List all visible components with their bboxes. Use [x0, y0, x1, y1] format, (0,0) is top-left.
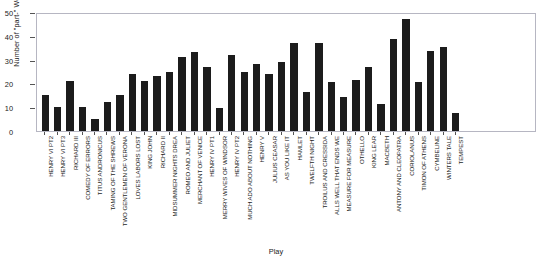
x-axis-tick-label: MEASURE FOR MEASURE [345, 136, 352, 212]
x-axis-tick-mark [418, 132, 419, 135]
bar [265, 74, 272, 131]
bar [415, 82, 422, 131]
x-axis-tick-label: TAMING OF THE SHREWS [109, 136, 116, 211]
bar [352, 80, 359, 131]
y-axis-tick-label: 40 [0, 32, 13, 41]
bar [203, 67, 210, 131]
x-axis-tick-label: KING LEAR [370, 136, 377, 168]
x-axis-tick-mark [368, 132, 369, 135]
bar-slot [151, 14, 163, 131]
x-axis-tick-label: AS YOU LIKE IT [283, 136, 290, 180]
x-axis-tick-label: HAMLET [296, 136, 303, 160]
x-axis-tick-mark [443, 132, 444, 135]
bar-slot [238, 14, 250, 131]
bar-slot [126, 14, 138, 131]
bar-slot [250, 14, 262, 131]
bar [91, 119, 98, 131]
bar [228, 55, 235, 131]
x-axis-tick-label: MIDSUMMER NIGHTS DREA [171, 136, 178, 217]
x-axis-tick-label: HENRY VI PT3 [59, 136, 66, 177]
bar-slot [89, 14, 101, 131]
x-axis-tick-mark [455, 132, 456, 135]
bar [178, 57, 185, 131]
x-axis-tick-label: TIMON OF ATHENS [420, 136, 427, 191]
y-axis-tick-label: 20 [0, 80, 13, 89]
bar [79, 107, 86, 131]
y-axis-tick-mark [30, 61, 35, 62]
y-axis-tick-label: 30 [0, 56, 13, 65]
bar [54, 107, 61, 131]
bar [141, 81, 148, 131]
x-axis-tick-label: RICHARD III [72, 136, 79, 170]
bar [340, 97, 347, 132]
bar [129, 74, 136, 131]
y-axis-tick-mark [30, 37, 35, 38]
x-axis-tick-mark [231, 132, 232, 135]
x-axis-tick-mark [243, 132, 244, 135]
bar [452, 113, 459, 131]
x-axis-tick-mark [331, 132, 332, 135]
bar [427, 51, 434, 131]
x-axis-tick-label: CORIOLANUS [408, 136, 415, 176]
bar-slot [114, 14, 126, 131]
bar [440, 47, 447, 131]
bar-slot [449, 14, 461, 131]
plot-area [36, 13, 536, 132]
bar-slot [300, 14, 312, 131]
x-axis-tick-mark [206, 132, 207, 135]
x-axis-tick-mark [281, 132, 282, 135]
x-axis-tick-label: TEMPEST [457, 136, 464, 164]
bar-slot [313, 14, 325, 131]
x-axis-tick-label: JULIUS CEASAR [271, 136, 278, 183]
x-axis-tick-mark [82, 132, 83, 135]
bar-series [37, 14, 535, 131]
x-axis-tick-mark [268, 132, 269, 135]
x-axis-tick-labels: HENRY VI PT2HENRY VI PT3RICHARD IIICOMED… [36, 136, 536, 240]
bar-slot [275, 14, 287, 131]
bar [278, 62, 285, 131]
bar [377, 104, 384, 131]
bar-slot [400, 14, 412, 131]
bar [104, 102, 111, 131]
bar-slot [201, 14, 213, 131]
bar-slot [263, 14, 275, 131]
bar-slot [163, 14, 175, 131]
x-axis-tick-mark [318, 132, 319, 135]
x-axis-tick-mark [69, 132, 70, 135]
bar [216, 108, 223, 131]
x-axis-tick-label: ROMEO AND JULIET [184, 136, 191, 194]
bar-slot [39, 14, 51, 131]
x-axis-tick-label: TROILUS AND CRESSIDA [321, 136, 328, 208]
bar [365, 67, 372, 131]
y-axis-tick-mark [30, 13, 35, 14]
x-axis-tick-mark [106, 132, 107, 135]
bar-slot [64, 14, 76, 131]
x-axis-tick-mark [380, 132, 381, 135]
x-axis-tick-mark [343, 132, 344, 135]
bar [116, 95, 123, 131]
x-axis-tick-mark [119, 132, 120, 135]
x-axis-tick-label: TWELFTH NIGHT [308, 136, 315, 185]
x-axis-tick-label: TITUS ANDRONICUS [96, 136, 103, 195]
bar-slot [375, 14, 387, 131]
bar [253, 64, 260, 131]
x-axis-tick-label: MERRY WIVES OF WINDSOR [221, 136, 228, 219]
bar-slot [101, 14, 113, 131]
x-axis-tick-label: CYMBELINE [433, 136, 440, 171]
bar [66, 81, 73, 131]
bar-slot [338, 14, 350, 131]
bar-slot [288, 14, 300, 131]
bar [290, 43, 297, 131]
bar-slot [387, 14, 399, 131]
bar-slot [412, 14, 424, 131]
bar [241, 72, 248, 132]
x-axis-tick-label: HENRY IV PT1 [208, 136, 215, 177]
x-axis-tick-mark [430, 132, 431, 135]
bar-slot [226, 14, 238, 131]
x-axis-tick-mark [44, 132, 45, 135]
bar [303, 92, 310, 131]
x-axis-tick-label: LOVES LABORS LOST [134, 136, 141, 200]
x-axis-tick-label: ANTONY AND CLEOPATRA [395, 136, 402, 212]
x-axis-tick-label: TWO GENTLEMEN OF VERONA [121, 136, 128, 226]
x-axis-tick-label: WINTERS TALE [445, 136, 452, 180]
